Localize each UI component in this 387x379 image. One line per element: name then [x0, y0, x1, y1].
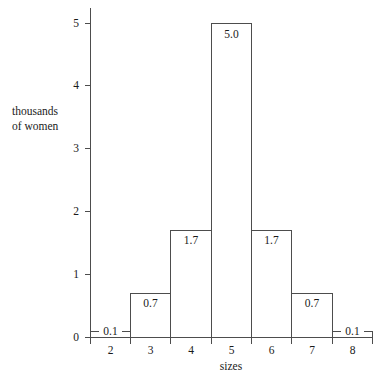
bar-label-size-7: 0.7 [305, 297, 320, 309]
x-axis-tick-labels: 2 3 4 5 6 7 8 [108, 344, 356, 356]
bar-label-size-8: 0.1 [345, 325, 360, 337]
x-tick-label-8: 8 [350, 344, 356, 356]
x-tick-label-7: 7 [309, 344, 315, 356]
x-tick-label-3: 3 [148, 344, 154, 356]
y-axis-ticks [85, 24, 91, 338]
y-tick-label-3: 3 [73, 142, 79, 154]
x-tick-label-4: 4 [188, 344, 194, 356]
bar-label-size-5: 5.0 [224, 28, 239, 40]
x-tick-label-2: 2 [108, 344, 114, 356]
x-axis-title: sizes [220, 360, 243, 372]
bar-label-size-4: 1.7 [184, 234, 199, 246]
bar-size-6 [252, 231, 292, 338]
bar-label-size-3: 0.7 [143, 297, 158, 309]
x-tick-label-6: 6 [269, 344, 275, 356]
histogram-bars [91, 24, 373, 338]
bar-size-4 [171, 231, 212, 338]
y-tick-label-4: 4 [73, 79, 79, 91]
bar-label-size-6: 1.7 [264, 234, 279, 246]
y-tick-label-1: 1 [73, 268, 79, 280]
y-tick-label-0: 0 [73, 331, 79, 343]
y-axis-tick-labels: 0 1 2 3 4 5 [73, 17, 79, 343]
bar-label-size-2: 0.1 [103, 325, 118, 337]
chart-figure: thousands of women 0 1 2 3 4 5 [0, 0, 387, 379]
bar-size-5 [212, 24, 252, 338]
x-axis-ticks [91, 338, 373, 344]
x-tick-label-5: 5 [229, 344, 235, 356]
plot-area: 0 1 2 3 4 5 2 3 4 5 6 7 8 [0, 0, 387, 379]
y-tick-label-2: 2 [73, 205, 79, 217]
y-tick-label-5: 5 [73, 17, 79, 29]
